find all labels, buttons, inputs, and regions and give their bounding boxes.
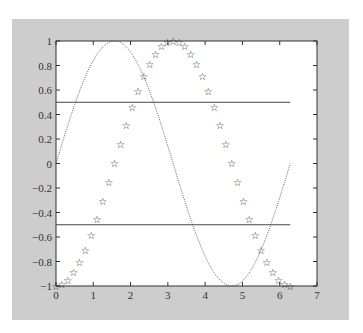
- star-marker: ☆: [221, 139, 230, 150]
- star-marker: ☆: [122, 120, 131, 131]
- star-marker: ☆: [87, 230, 96, 241]
- star-marker: ☆: [239, 196, 248, 207]
- y-tick-label: 0.4: [38, 109, 52, 121]
- star-marker: ☆: [245, 214, 254, 225]
- star-marker: ☆: [139, 71, 148, 82]
- star-marker: ☆: [198, 71, 207, 82]
- y-tick-label: −0.2: [32, 182, 52, 194]
- star-marker: ☆: [69, 267, 78, 278]
- y-tick-label: −0.6: [32, 231, 52, 243]
- y-tick-label: 1: [47, 35, 53, 47]
- x-tick-label: 2: [128, 289, 134, 301]
- y-tick-label: 0.2: [38, 133, 52, 145]
- star-marker: ☆: [192, 59, 201, 70]
- y-tick-label: −0.8: [32, 256, 52, 268]
- star-marker: ☆: [257, 245, 266, 256]
- star-marker: ☆: [110, 158, 119, 169]
- star-marker: ☆: [233, 177, 242, 188]
- y-tick-label: 0: [47, 158, 53, 170]
- star-marker: ☆: [286, 281, 295, 292]
- y-tick-label: 0.8: [38, 60, 52, 72]
- axes-box: [56, 41, 317, 286]
- star-marker: ☆: [98, 196, 107, 207]
- star-marker: ☆: [251, 230, 260, 241]
- star-marker: ☆: [93, 214, 102, 225]
- x-tick-label: 7: [314, 289, 320, 301]
- x-tick-label: 1: [91, 289, 97, 301]
- star-marker: ☆: [145, 59, 154, 70]
- y-tick-label: −0.4: [32, 207, 52, 219]
- x-tick-labels: 01234567: [53, 289, 320, 301]
- x-tick-label: 4: [202, 289, 208, 301]
- star-marker: ☆: [210, 102, 219, 113]
- y-tick-labels: −1−0.8−0.6−0.4−0.200.20.40.60.81: [32, 35, 52, 292]
- star-marker: ☆: [116, 139, 125, 150]
- star-marker: ☆: [128, 102, 137, 113]
- x-tick-label: 3: [165, 289, 171, 301]
- x-tick-label: 5: [240, 289, 246, 301]
- star-marker: ☆: [75, 257, 84, 268]
- star-marker: ☆: [216, 120, 225, 131]
- star-marker: ☆: [81, 245, 90, 256]
- star-marker: ☆: [134, 86, 143, 97]
- plot-area: 01234567 −1−0.8−0.6−0.4−0.200.20.40.60.8…: [0, 0, 363, 333]
- y-tick-label: 0.6: [38, 84, 52, 96]
- x-tick-label: 6: [277, 289, 283, 301]
- y-tick-label: −1: [40, 280, 52, 292]
- star-marker: ☆: [104, 177, 113, 188]
- star-marker: ☆: [204, 86, 213, 97]
- star-marker: ☆: [227, 158, 236, 169]
